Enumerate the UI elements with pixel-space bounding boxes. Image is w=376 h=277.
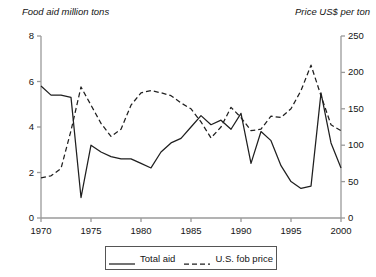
- legend-label: U.S. fob price: [215, 253, 273, 264]
- y2-tick-label: 0: [348, 212, 376, 223]
- legend-swatch: [184, 254, 210, 262]
- y2-tick-label: 100: [348, 139, 376, 150]
- chart-figure: Food aid million tons Price US$ per ton …: [0, 0, 376, 277]
- x-tick-label: 1985: [171, 225, 211, 236]
- legend-entry: Total aid: [109, 253, 175, 264]
- x-tick-label: 1975: [71, 225, 111, 236]
- axes: [37, 36, 345, 222]
- legend-swatch: [109, 254, 135, 262]
- chart-legend: Total aidU.S. fob price: [105, 246, 277, 270]
- x-tick-label: 1990: [221, 225, 261, 236]
- y2-tick-label: 200: [348, 66, 376, 77]
- y-tick-label: 4: [8, 121, 34, 132]
- x-tick-label: 1995: [271, 225, 311, 236]
- y2-tick-label: 250: [348, 30, 376, 41]
- legend-entry: U.S. fob price: [184, 253, 273, 264]
- legend-label: Total aid: [140, 253, 175, 264]
- series-line: [41, 65, 341, 178]
- x-tick-label: 1970: [21, 225, 61, 236]
- series-line: [41, 86, 341, 197]
- y2-tick-label: 50: [348, 176, 376, 187]
- x-tick-label: 1980: [121, 225, 161, 236]
- y2-tick-label: 150: [348, 103, 376, 114]
- y-tick-label: 0: [8, 212, 34, 223]
- data-series: [41, 65, 341, 197]
- y-tick-label: 2: [8, 167, 34, 178]
- y-tick-label: 8: [8, 30, 34, 41]
- y-tick-label: 6: [8, 76, 34, 87]
- x-tick-label: 2000: [321, 225, 361, 236]
